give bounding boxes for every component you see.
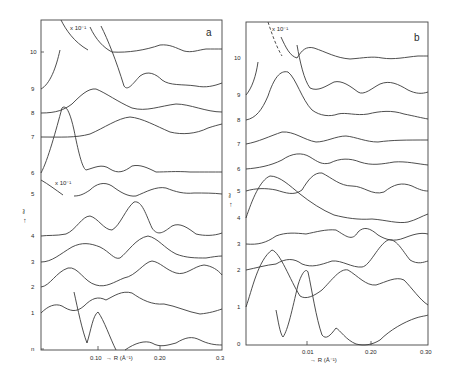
panel-b-letter: b <box>414 33 420 43</box>
panel-b-y-tick-8: 8 <box>237 117 240 123</box>
panel-a-curve-l7 <box>41 117 222 137</box>
panel-a-y-tick-3: 3 <box>31 259 34 265</box>
panel-a-y-tick-6: 6 <box>31 170 34 176</box>
panel-b-curve-l10-scaled <box>281 37 428 59</box>
panel-a-y-axis-label: → ℓ <box>20 208 27 224</box>
panel-b-x-tick-0.20: 0.20 <box>365 349 377 355</box>
panel-b-curve-l8 <box>246 72 428 120</box>
panel-a-curve-l5 <box>74 183 222 196</box>
panel-b-y-tick-9: 9 <box>237 92 240 98</box>
panel-a-annotation-scale-mid: x 10⁻¹ <box>55 180 71 186</box>
panel-a-y-tick-4: 4 <box>31 233 34 239</box>
panel-a-curve-l0 <box>74 292 222 350</box>
panel-a-x-tick-0.3: 0.3 <box>216 355 224 361</box>
panel-b-y-tick-10: 10 <box>234 55 241 61</box>
panel-b-curve-l1 <box>246 250 428 307</box>
panel-a-x-tick-0.10: 0.10 <box>90 355 102 361</box>
panel-b-curve-l2 <box>246 240 428 270</box>
panel-b-y-tick-4: 4 <box>237 215 240 221</box>
panel-b-annotation-scale: x 10⁻¹ <box>272 26 288 32</box>
panel-b-frame <box>246 22 428 345</box>
panel-b-curve-l9 <box>246 45 428 95</box>
panel-b-x-tick-0.30: 0.30 <box>420 349 432 355</box>
panel-a-curve-l2 <box>41 261 222 287</box>
panel-a-curve-l10 <box>90 27 222 52</box>
panel-b-curve-l6 <box>246 154 428 169</box>
panel-b <box>246 22 428 345</box>
panel-a-y-tick-10: 10 <box>30 49 37 55</box>
panel-b-y-tick-3: 3 <box>237 241 240 247</box>
panel-a-curve-l4 <box>41 202 222 236</box>
panel-b-y-tick-5: 5 <box>237 188 240 194</box>
panel-a-letter: a <box>206 28 212 38</box>
panel-a-curve-l8 <box>41 89 222 113</box>
panel-a-y-tick-2: 2 <box>31 284 34 290</box>
panel-a-y-tick-9: 9 <box>31 86 34 92</box>
panel-a-y-tick-7: 7 <box>31 134 34 140</box>
panel-b-y-tick-2: 2 <box>237 267 240 273</box>
panel-a-y-tick-0: n <box>31 346 34 352</box>
panel-a-curve-l9 <box>41 26 222 89</box>
panel-a-curve-l1 <box>41 292 222 314</box>
panel-b-x-tick-0.01: 0.01 <box>302 349 314 355</box>
panel-b-curve-l7 <box>246 132 428 144</box>
panel-a-y-tick-5: 5 <box>31 191 34 197</box>
panel-b-x-axis-label: → R (Å⁻¹) <box>310 357 337 363</box>
panel-a-y-tick-8: 8 <box>31 110 34 116</box>
panel-b-y-tick-6: 6 <box>237 166 240 172</box>
panel-b-x-ticks <box>307 341 371 345</box>
panel-b-y-tick-1: 1 <box>237 304 240 310</box>
panel-b-y-axis-label: → ℓ <box>226 192 233 208</box>
panel-b-curve-l3 <box>246 228 428 244</box>
panel-a-x-axis-label: → R (Å⁻¹) <box>106 355 133 361</box>
panel-a-x-ticks <box>98 346 160 350</box>
figure-canvas <box>0 0 455 372</box>
panel-a-annotation-scale-top: x 10⁻¹ <box>70 25 86 31</box>
panel-a-y-tick-1: 1 <box>31 310 34 316</box>
panel-a-x-tick-0.20: 0.20 <box>154 355 166 361</box>
panel-b-curve-l4 <box>246 176 428 223</box>
panel-b-y-tick-7: 7 <box>237 141 240 147</box>
panel-b-y-tick-0: 0 <box>237 341 240 347</box>
panel-a-curve-l3 <box>41 236 222 262</box>
